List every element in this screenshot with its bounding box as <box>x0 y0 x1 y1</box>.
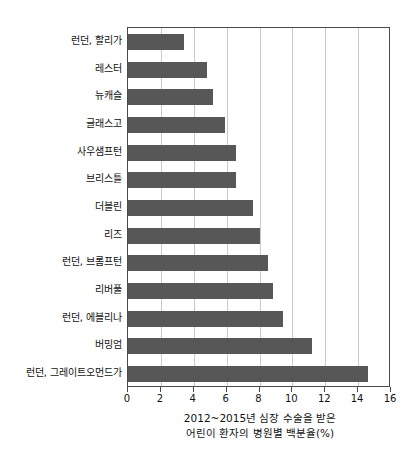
y-axis-category-label: 레스터 <box>0 63 122 75</box>
x-axis-tick-label: 16 <box>384 392 397 405</box>
bar <box>128 311 283 327</box>
x-axis-tick-label: 10 <box>285 392 298 405</box>
bar <box>128 117 225 133</box>
x-axis-tick-label: 14 <box>351 392 364 405</box>
bar <box>128 366 368 382</box>
bar <box>128 145 236 161</box>
x-axis-title: 2012~2015년 심장 수술을 받은 어린이 환자의 병원별 백분율(%) <box>120 411 400 441</box>
bar <box>128 200 253 216</box>
bars-group <box>128 28 389 386</box>
bar <box>128 255 268 271</box>
y-axis-category-label: 버밍엄 <box>0 339 122 351</box>
y-axis-category-label: 리버풀 <box>0 284 122 296</box>
y-axis-category-label: 글래스고 <box>0 118 122 130</box>
bar-chart: 런던, 할리가레스터뉴캐슬글래스고사우샘프턴브리스틀더블린리즈런던, 브롬프턴리… <box>0 0 418 464</box>
bar <box>128 172 236 188</box>
x-axis-title-line-1: 2012~2015년 심장 수술을 받은 <box>120 411 400 426</box>
bar <box>128 228 260 244</box>
x-axis-tick-label: 4 <box>190 392 196 405</box>
bar <box>128 283 273 299</box>
x-axis-tick-label: 0 <box>124 392 130 405</box>
y-axis-category-label: 리즈 <box>0 229 122 241</box>
bar <box>128 89 213 105</box>
x-axis-tick-label: 6 <box>222 392 228 405</box>
bar <box>128 34 184 50</box>
y-axis-category-label: 런던, 그레이트오먼드가 <box>0 367 122 379</box>
bar <box>128 62 207 78</box>
x-axis-tick-labels: 0246810121416 <box>0 392 418 408</box>
y-axis-category-label: 더블린 <box>0 201 122 213</box>
x-axis-tick-label: 2 <box>157 392 163 405</box>
y-axis-category-labels: 런던, 할리가레스터뉴캐슬글래스고사우샘프턴브리스틀더블린리즈런던, 브롬프턴리… <box>0 27 122 387</box>
plot-area <box>127 27 390 387</box>
y-axis-category-label: 뉴캐슬 <box>0 90 122 102</box>
x-axis-title-line-2: 어린이 환자의 병원별 백분율(%) <box>120 426 400 441</box>
y-axis-category-label: 브리스틀 <box>0 173 122 185</box>
y-axis-category-label: 런던, 할리가 <box>0 35 122 47</box>
y-axis-category-label: 런던, 에블리나 <box>0 312 122 324</box>
x-axis-tick-label: 12 <box>318 392 331 405</box>
y-axis-category-label: 런던, 브롬프턴 <box>0 256 122 268</box>
x-axis-tick-label: 8 <box>255 392 261 405</box>
y-axis-category-label: 사우샘프턴 <box>0 146 122 158</box>
bar <box>128 338 312 354</box>
